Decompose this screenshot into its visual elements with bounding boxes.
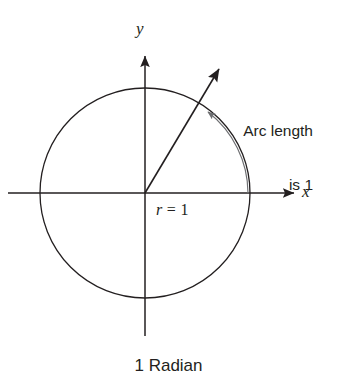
radian-diagram-figure: y x r = 1 Arc length is 1 1 Radian (0, 0, 337, 386)
arc-length-annotation: Arc length is 1 (183, 85, 313, 231)
y-axis-label: y (136, 19, 144, 39)
figure-caption: 1 Radian (0, 356, 337, 376)
arc-annotation-line-2: is 1 (183, 176, 313, 194)
arc-annotation-line-1: Arc length (183, 122, 313, 140)
